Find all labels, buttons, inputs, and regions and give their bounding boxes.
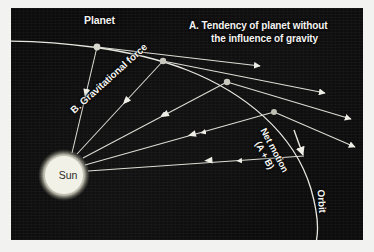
gravity-arrow-3 xyxy=(83,82,227,158)
planet-label: Planet xyxy=(84,14,115,26)
tendency-label-line1: A. Tendency of planet without xyxy=(189,20,328,31)
gravity-arrow-4 xyxy=(85,112,274,165)
orbit-label: Orbit xyxy=(316,189,329,213)
planet-marker-1 xyxy=(94,44,101,51)
planet-marker-3 xyxy=(224,79,230,85)
gravity-arrowhead-4 xyxy=(187,130,197,139)
tendency-arrow-2 xyxy=(163,61,325,93)
tendency-label: A. Tendency of planet without the influe… xyxy=(189,20,355,45)
tendency-arrows-group xyxy=(97,47,355,147)
gravity-arrowhead-3 xyxy=(159,110,169,120)
net-motion-arrow xyxy=(294,130,303,155)
diagram-panel: Planet A. Tendency of planet without the… xyxy=(11,8,363,240)
tendency-label-line2: the influence of gravity xyxy=(189,33,355,46)
planet-marker-4 xyxy=(271,109,277,115)
sun-label: Sun xyxy=(51,169,85,181)
planet-marker-2 xyxy=(160,58,166,64)
orbit-diagram-figure: Planet A. Tendency of planet without the… xyxy=(0,0,374,252)
tendency-arrow-3 xyxy=(227,82,351,119)
